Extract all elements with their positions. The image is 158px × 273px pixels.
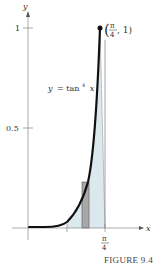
x-tick-label-pi: π [102,235,107,243]
y-tick-label-half: 0.5 [6,124,19,133]
function-label: y = tan 4 x [47,80,95,93]
figure-caption: FIGURE 9.4 [104,255,153,265]
endpoint-dot [98,26,103,31]
chart: y x 1 0.5 π 4 y = tan 4 x ( π 4 , 1) [0,0,158,273]
x-axis-label: x [146,224,151,233]
x-axis-arrow-icon [139,226,144,230]
point-label-rest: , 1) [117,25,132,35]
point-label-open: ( [104,21,110,39]
y-axis-label: y [22,2,28,11]
point-label-num: π [110,22,115,30]
y-tick-label-1: 1 [15,24,20,33]
x-tick-label-den: 4 [102,244,107,252]
y-axis-arrow-icon [26,11,30,17]
point-label-den: 4 [110,31,115,39]
